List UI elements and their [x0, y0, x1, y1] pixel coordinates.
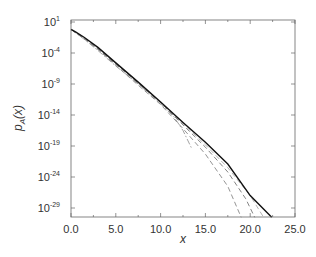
y-tick-label: 101	[44, 15, 60, 28]
chart: 0.05.010.015.020.025.0 10110-410-910-141…	[0, 0, 316, 257]
series-dash-dot	[71, 29, 192, 149]
axis-ticks	[71, 20, 295, 217]
series-dashed-3	[71, 29, 264, 217]
series-layer	[71, 29, 272, 217]
series-dashed-1	[71, 29, 255, 217]
y-tick-label: 10-14	[38, 108, 60, 121]
x-tick-label: 5.0	[108, 223, 123, 235]
x-axis-label: x	[179, 232, 187, 246]
y-tick-label: 10-24	[38, 170, 60, 183]
y-tick-label: 10-9	[42, 77, 61, 90]
svg-text:pA(x): pA(x)	[11, 105, 27, 132]
x-tick-label: 0.0	[63, 223, 78, 235]
plot-frame	[71, 20, 295, 217]
x-tick-label: 15.0	[195, 223, 216, 235]
x-tick-label: 20.0	[239, 223, 260, 235]
x-tick-label: 25.0	[284, 223, 305, 235]
y-tick-label: 10-4	[42, 46, 61, 59]
y-tick-label: 10-29	[38, 201, 60, 214]
y-axis-label: pA(x)	[11, 105, 27, 132]
x-tick-label: 10.0	[150, 223, 171, 235]
series-solid	[71, 29, 272, 217]
series-dashed-2	[71, 29, 241, 217]
y-tick-label: 10-19	[38, 139, 60, 152]
y-tick-labels: 10110-410-910-1410-1910-2410-29	[38, 15, 60, 214]
